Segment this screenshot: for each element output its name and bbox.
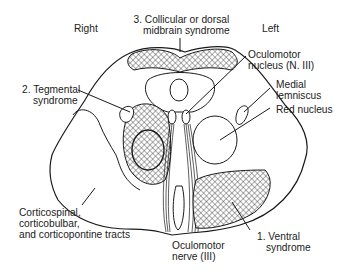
- cerebral-aqueduct: [170, 79, 188, 101]
- label-left: Left: [262, 23, 279, 34]
- leader-tegmental: [78, 90, 130, 112]
- label-oculomotor-nerve: Oculomotor nerve (III): [172, 240, 225, 262]
- label-right: Right: [74, 23, 98, 34]
- medial-lemniscus-left: [236, 106, 248, 125]
- interpeduncular-fossa: [173, 186, 184, 230]
- leader-corticospinal: [82, 188, 95, 205]
- ventral-region: [193, 170, 270, 228]
- label-collicular-syndrome: 3. Collicular or dorsal midbrain syndrom…: [133, 14, 230, 36]
- label-red-nucleus: Red nucleus: [276, 104, 333, 115]
- leader-medial-lemniscus: [244, 88, 270, 112]
- label-ventral-syndrome: 1. Ventral syndrome: [257, 231, 311, 253]
- label-medial-lemniscus: Medial lemniscus: [276, 79, 321, 101]
- red-nucleus-left: [193, 116, 237, 164]
- label-tegmental-syndrome: 2. Tegmental syndrome: [22, 84, 80, 106]
- collicular-region: [128, 49, 238, 72]
- label-corticospinal-tracts: Corticospinal, corticobulbar, and cortic…: [19, 207, 130, 240]
- label-oculomotor-nucleus: Oculomotor nucleus (N. III): [248, 49, 314, 71]
- oculomotor-nucleus-right: [168, 110, 176, 124]
- oculomotor-nucleus-left: [182, 110, 190, 124]
